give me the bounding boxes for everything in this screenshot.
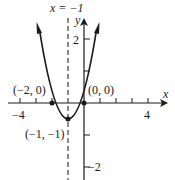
point-label-0-0: (0, 0) bbox=[88, 83, 114, 97]
curve-arrow-right-icon bbox=[94, 22, 100, 34]
point-vertex bbox=[66, 117, 71, 122]
parabola-graph: x = −1 y x 2 −2 −4 4 (−2, 0) (0, 0) (−1,… bbox=[0, 0, 175, 180]
x-axis-label: x bbox=[162, 87, 169, 101]
y-tick-label-2: 2 bbox=[73, 33, 79, 47]
point-label-neg2-0: (−2, 0) bbox=[13, 83, 46, 97]
point-label-vertex: (−1, −1) bbox=[25, 127, 65, 141]
curve-arrow-left-icon bbox=[37, 22, 43, 34]
y-axis-label: y bbox=[74, 13, 81, 27]
x-tick-label-4: 4 bbox=[144, 108, 150, 122]
point-neg2-0 bbox=[50, 101, 55, 106]
y-tick-label-neg2: −2 bbox=[88, 160, 101, 174]
point-0-0 bbox=[82, 101, 87, 106]
x-tick-label-neg4: −4 bbox=[12, 108, 25, 122]
